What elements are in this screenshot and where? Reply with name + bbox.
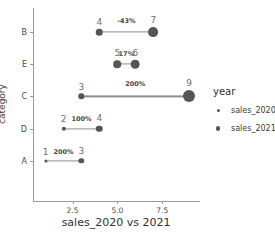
value-label-start: 4 <box>97 17 103 27</box>
y-tick-mark <box>30 96 33 97</box>
data-point-sales_2021[interactable] <box>148 27 158 37</box>
plot-area: B47-43%E5617%C39200%D24100%A13200% <box>33 8 200 201</box>
legend-marker-icon <box>213 126 223 130</box>
data-point-sales_2020[interactable] <box>44 159 47 162</box>
y-tick-mark <box>30 64 33 65</box>
value-label-end: 3 <box>79 146 85 156</box>
x-tick-label: 2.5 <box>67 206 79 215</box>
connector-line <box>99 32 153 33</box>
percent-change-label: 17% <box>119 50 135 58</box>
value-label-end: 9 <box>186 78 192 88</box>
y-tick-mark <box>30 32 33 33</box>
y-tick-mark <box>30 161 33 162</box>
data-point-sales_2021[interactable] <box>183 90 195 102</box>
y-tick-label-e: E <box>22 60 27 69</box>
data-point-sales_2020[interactable] <box>61 126 65 130</box>
value-label-end: 7 <box>150 15 156 25</box>
x-tick-mark <box>162 201 163 204</box>
data-point-sales_2021[interactable] <box>79 158 84 163</box>
percent-change-label: 200% <box>125 80 145 88</box>
x-tick-mark <box>73 201 74 204</box>
value-label-start: 2 <box>61 114 67 124</box>
legend-label: sales_2020 <box>231 106 275 115</box>
value-label-end: 4 <box>97 113 103 123</box>
connector-line <box>81 96 189 97</box>
value-label-start: 3 <box>79 82 85 92</box>
legend-title: year <box>213 86 275 97</box>
y-tick-mark <box>30 129 33 130</box>
data-point-sales_2020[interactable] <box>96 29 103 36</box>
y-tick-label-c: C <box>21 92 27 101</box>
y-tick-label-b: B <box>22 28 28 37</box>
legend-marker-icon <box>213 109 223 112</box>
percent-change-label: -43% <box>117 17 135 25</box>
percent-change-label: 200% <box>53 148 73 156</box>
y-tick-label-d: D <box>21 124 27 133</box>
legend-label: sales_2021 <box>231 124 275 133</box>
legend: year sales_2020sales_2021 <box>213 86 275 142</box>
legend-item[interactable]: sales_2020 <box>213 106 275 115</box>
connector-line <box>64 128 100 129</box>
data-point-sales_2020[interactable] <box>79 94 84 99</box>
x-tick-label: 7.5 <box>156 206 168 215</box>
chart-container: category sales_2020 vs 2021 2.55.07.5 B4… <box>0 0 275 243</box>
data-point-sales_2021[interactable] <box>131 60 140 69</box>
percent-change-label: 100% <box>71 115 91 123</box>
x-tick-label: 5.0 <box>111 206 123 215</box>
data-point-sales_2020[interactable] <box>114 60 122 68</box>
data-point-sales_2021[interactable] <box>96 125 103 132</box>
x-axis-label: sales_2020 vs 2021 <box>62 216 171 229</box>
y-axis-label: category <box>0 84 7 124</box>
connector-line <box>46 160 82 161</box>
legend-entries: sales_2020sales_2021 <box>213 106 275 133</box>
legend-item[interactable]: sales_2021 <box>213 124 275 133</box>
x-tick-mark <box>117 201 118 204</box>
value-label-start: 1 <box>43 147 49 157</box>
y-tick-label-a: A <box>22 156 27 165</box>
